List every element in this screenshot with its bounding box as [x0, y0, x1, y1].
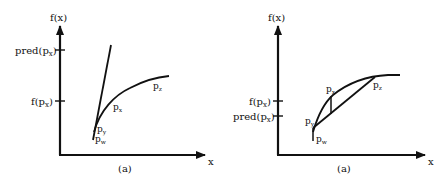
point-label-pz: pz: [373, 80, 382, 91]
point-label-px: px: [113, 102, 123, 113]
panel-left: f(x) x (a) pred(px) f(px) px pz py pw: [15, 12, 214, 174]
tick-label-f-px: f(px): [31, 96, 53, 109]
caption: (a): [337, 163, 351, 174]
point-label-pz: pz: [153, 81, 162, 92]
diagram-canvas: f(x) x (a) pred(px) f(px) px pz py pw f(…: [0, 0, 441, 184]
x-axis-label: x: [428, 156, 434, 167]
point-label-px: px: [326, 84, 336, 95]
chord-line: [313, 77, 375, 128]
panel-right: f(x) x (a) f(px) pred(px) px pz py pw: [233, 12, 434, 174]
point-label-pw: pw: [316, 134, 328, 145]
x-axis-label: x: [208, 156, 214, 167]
tick-label-f-px: f(px): [249, 96, 271, 109]
tick-label-pred-px: pred(px): [233, 111, 275, 124]
caption: (a): [118, 163, 132, 174]
y-axis-label: f(x): [268, 12, 285, 23]
y-axis-label: f(x): [50, 12, 67, 23]
point-label-pw: pw: [95, 134, 107, 145]
point-label-py: py: [305, 116, 315, 128]
tick-label-pred-px: pred(px): [15, 45, 57, 58]
